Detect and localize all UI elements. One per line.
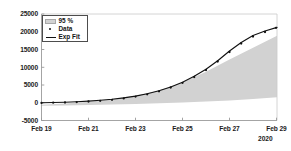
- xtick-label-feb-25: Feb 25: [163, 125, 203, 132]
- ytick-label-minus5000: -5000: [2, 117, 38, 124]
- xtick-label-feb-19: Feb 19: [22, 125, 62, 132]
- xtick-label-feb-21: Feb 21: [69, 125, 109, 132]
- legend-label-95-percent: 95 %: [59, 17, 74, 25]
- legend-label-exp-fit: Exp Fit: [59, 33, 80, 41]
- ytick-label-10000: 10000: [2, 64, 38, 71]
- xtick-label-feb-29: Feb 29: [257, 125, 291, 132]
- xtick-label-feb-27: Feb 27: [210, 125, 250, 132]
- ytick-label-0: 0: [2, 99, 38, 106]
- x-axis-year-label: 2020: [258, 135, 273, 142]
- exponential-fit-chart: 25000 20000 15000 10000 5000 0 -5000 Feb…: [0, 0, 290, 151]
- legend-entry-data: Data: [45, 25, 85, 33]
- line-marker-icon: [45, 34, 56, 41]
- ytick-label-15000: 15000: [2, 46, 38, 53]
- xtick-label-feb-23: Feb 23: [116, 125, 156, 132]
- ytick-label-25000: 25000: [2, 10, 38, 17]
- chart-legend[interactable]: 95 % Data Exp Fit: [42, 15, 88, 42]
- confidence-band-95: [42, 36, 278, 106]
- legend-entry-95-percent: 95 %: [45, 17, 85, 25]
- dot-marker-icon: [45, 25, 56, 32]
- ytick-label-5000: 5000: [2, 81, 38, 88]
- ytick-label-20000: 20000: [2, 28, 38, 35]
- legend-label-data: Data: [59, 25, 73, 33]
- legend-entry-exp-fit: Exp Fit: [45, 33, 85, 41]
- band-swatch-icon: [45, 19, 56, 25]
